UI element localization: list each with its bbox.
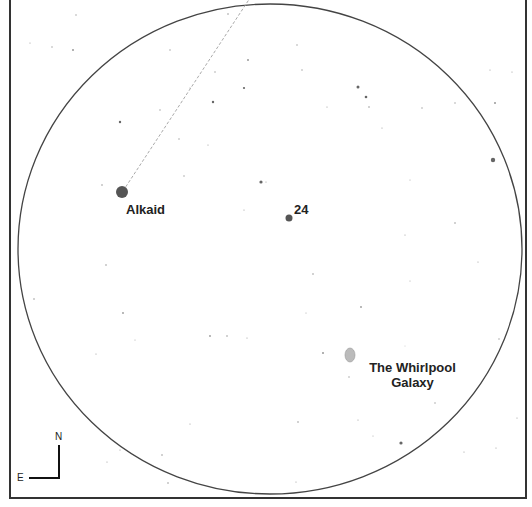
star	[119, 121, 121, 123]
star	[296, 44, 297, 45]
star	[297, 421, 299, 423]
star	[491, 158, 495, 162]
alkaid-pointer-line	[123, 0, 250, 191]
star	[312, 273, 314, 275]
star	[454, 102, 455, 103]
star	[135, 340, 136, 341]
star	[214, 71, 215, 72]
whirlpool-label-line1: The Whirlpool	[355, 360, 470, 375]
star	[101, 184, 103, 186]
compass-icon	[29, 445, 60, 478]
star	[399, 441, 402, 444]
star	[212, 101, 214, 103]
star	[381, 127, 382, 128]
star	[29, 42, 30, 43]
field-of-view-circle	[18, 4, 522, 494]
star	[477, 261, 478, 262]
star	[243, 87, 245, 89]
star	[494, 102, 496, 104]
star	[51, 46, 52, 47]
star	[516, 417, 517, 418]
star	[348, 376, 349, 377]
star	[404, 234, 405, 235]
background-stars	[29, 13, 517, 484]
star	[161, 454, 163, 456]
star	[410, 281, 411, 282]
star	[169, 49, 170, 50]
star	[322, 352, 324, 354]
star	[357, 86, 360, 89]
star	[209, 335, 211, 337]
star	[105, 264, 107, 266]
star	[511, 71, 512, 72]
star	[246, 337, 247, 338]
star	[421, 107, 422, 108]
star	[368, 106, 370, 108]
star	[405, 346, 406, 347]
star-24-label: 24	[294, 202, 308, 217]
alkaid-label: Alkaid	[126, 202, 165, 217]
star	[365, 96, 368, 99]
star	[463, 451, 464, 452]
star	[360, 306, 362, 308]
star	[207, 144, 208, 145]
star	[178, 138, 179, 139]
star	[498, 338, 499, 339]
star	[495, 447, 496, 448]
star-chart	[0, 0, 532, 507]
star	[247, 59, 249, 61]
star	[75, 14, 76, 15]
star-24[interactable]	[286, 215, 293, 222]
star	[434, 402, 435, 403]
star	[159, 109, 160, 110]
alkaid-star[interactable]	[116, 186, 128, 198]
star	[454, 222, 456, 224]
whirlpool-galaxy-label: The Whirlpool Galaxy	[355, 360, 470, 390]
star	[373, 436, 374, 437]
star	[295, 481, 296, 482]
star	[167, 482, 169, 484]
compass-north-label: N	[55, 431, 62, 442]
star	[326, 106, 327, 107]
star	[95, 353, 96, 354]
star	[33, 298, 35, 300]
compass-east-label: E	[17, 472, 24, 483]
star	[259, 180, 262, 183]
star	[227, 13, 229, 15]
star	[183, 175, 184, 176]
star	[357, 419, 358, 420]
star	[306, 313, 307, 314]
whirlpool-label-line2: Galaxy	[355, 375, 470, 390]
star	[301, 69, 302, 70]
star	[489, 69, 490, 70]
star	[410, 180, 411, 181]
star	[122, 312, 124, 314]
star	[265, 181, 266, 182]
star	[106, 461, 107, 462]
star	[243, 209, 244, 210]
star	[72, 49, 74, 51]
star	[119, 449, 120, 450]
whirlpool-galaxy-icon[interactable]	[345, 348, 355, 362]
star	[226, 335, 228, 337]
star	[189, 423, 190, 424]
star	[189, 87, 190, 88]
